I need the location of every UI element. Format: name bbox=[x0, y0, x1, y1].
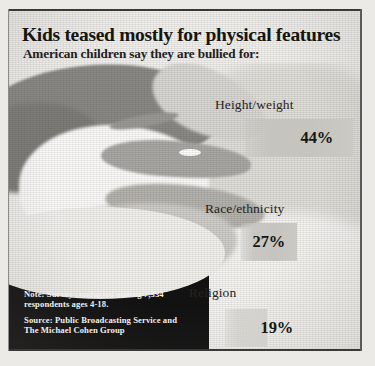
bar-value-height-weight: 44% bbox=[301, 128, 353, 148]
bar-value-race-ethnicity: 27% bbox=[253, 232, 297, 252]
page-subtitle: American children say they are bullied f… bbox=[23, 47, 259, 60]
bar-label-race-ethnicity: Race/ethnicity bbox=[205, 201, 284, 217]
bar-race-ethnicity: 27% bbox=[241, 223, 297, 261]
photo-nose-highlight bbox=[179, 149, 201, 156]
page-title: Kids teased mostly for physical features bbox=[22, 25, 340, 45]
bar-height-weight: 44% bbox=[245, 119, 353, 157]
source-note: Source: Public Broadcasting Service and … bbox=[24, 315, 184, 335]
survey-note: Note: Survey conducted among 7,334 respo… bbox=[24, 289, 184, 309]
bar-label-religion: Religion bbox=[189, 285, 236, 301]
bar-religion: 19% bbox=[225, 309, 267, 347]
infographic-clipping: Kids teased mostly for physical features… bbox=[0, 0, 375, 366]
frame-right-rule bbox=[360, 9, 362, 351]
bar-value-religion: 19% bbox=[261, 318, 293, 338]
frame-bottom-rule bbox=[8, 349, 362, 351]
bar-label-height-weight: Height/weight bbox=[215, 97, 294, 113]
graphic-panel: Kids teased mostly for physical features… bbox=[9, 11, 360, 349]
note-block: Note: Survey conducted among 7,334 respo… bbox=[24, 289, 184, 335]
